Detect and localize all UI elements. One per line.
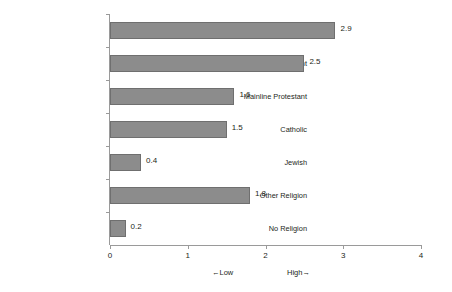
plot-area: Evangelical Protestant2.9Black Protestan… <box>110 14 421 245</box>
x-axis-tick-label: 0 <box>100 251 120 261</box>
bar-value-label: 1.6 <box>239 90 250 100</box>
scale-annotation-low: ←Low <box>212 268 233 278</box>
bar <box>110 154 141 171</box>
bar-row: Black Protestant2.5 <box>110 47 421 80</box>
x-axis-tick <box>266 245 267 249</box>
category-label: Jewish <box>284 158 307 167</box>
bar <box>110 121 227 138</box>
x-axis-tick-label: 4 <box>411 251 431 261</box>
x-axis-tick <box>421 245 422 249</box>
bar-chart: Evangelical Protestant2.9Black Protestan… <box>0 0 452 292</box>
bar-value-label: 2.9 <box>340 24 351 34</box>
x-axis-tick <box>110 245 111 249</box>
y-axis-tick <box>106 47 110 48</box>
y-axis-tick <box>106 212 110 213</box>
bar-row: Mainline Protestant1.6 <box>110 80 421 113</box>
bar-row: Catholic1.5 <box>110 113 421 146</box>
bar-row: Evangelical Protestant2.9 <box>110 14 421 47</box>
bar-value-label: 0.2 <box>131 222 142 232</box>
y-axis-tick <box>106 146 110 147</box>
category-label: Catholic <box>280 125 307 134</box>
x-axis-tick <box>343 245 344 249</box>
y-axis-tick <box>106 113 110 114</box>
y-axis-tick <box>106 80 110 81</box>
bar-value-label: 2.5 <box>309 57 320 67</box>
bar-value-label: 1.8 <box>255 189 266 199</box>
bar-value-label: 0.4 <box>146 156 157 166</box>
bar-row: Jewish0.4 <box>110 146 421 179</box>
bar <box>110 187 250 204</box>
category-label: Mainline Protestant <box>244 92 307 101</box>
bar-row: Other Religion1.8 <box>110 179 421 212</box>
x-axis-tick-label: 3 <box>333 251 353 261</box>
bar <box>110 55 304 72</box>
category-label: Other Religion <box>260 191 307 200</box>
bar <box>110 88 234 105</box>
bar-row: No Religion0.2 <box>110 212 421 245</box>
x-axis-tick-label: 2 <box>256 251 276 261</box>
category-label: No Religion <box>269 224 307 233</box>
bar <box>110 220 126 237</box>
scale-annotation-high: High→ <box>287 268 310 278</box>
y-axis-tick <box>106 179 110 180</box>
bar <box>110 22 335 39</box>
x-axis-tick <box>188 245 189 249</box>
bar-value-label: 1.5 <box>232 123 243 133</box>
x-axis-tick-label: 1 <box>178 251 198 261</box>
y-axis-tick <box>106 14 110 15</box>
